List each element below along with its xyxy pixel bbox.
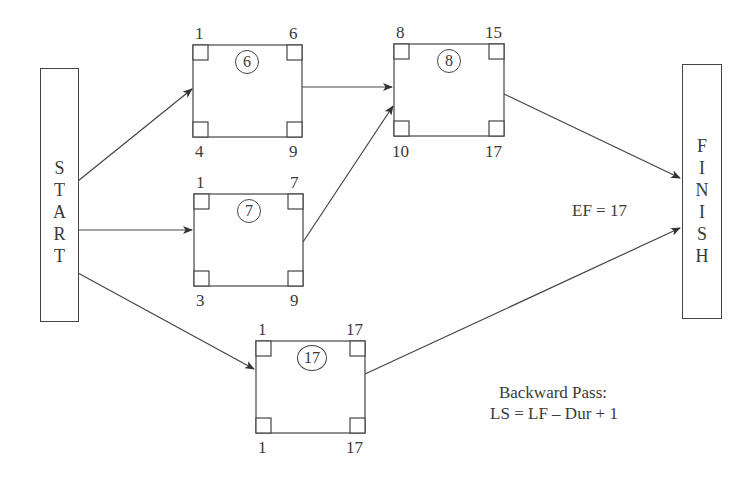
act8-early-start: 8 (396, 24, 405, 41)
start-label: S T A R T (41, 157, 78, 267)
act17-late-start: 1 (258, 439, 267, 456)
act6-early-start: 1 (195, 25, 204, 42)
act7-early-start: 1 (196, 174, 205, 191)
backward-pass-formula: LS = LF – Dur + 1 (469, 404, 639, 424)
finish-letter: H (683, 245, 721, 267)
edge-start-to-act17 (78, 273, 254, 369)
act6-early-finish: 6 (289, 25, 298, 42)
act17-early-start: 1 (258, 321, 267, 338)
act17-late-finish: 17 (346, 439, 363, 456)
start-letter: T (41, 245, 78, 267)
finish-label: F I N I S H (683, 135, 721, 267)
finish-letter: S (683, 223, 721, 245)
edge-start-to-act6 (78, 89, 192, 181)
network-diagram-canvas (0, 0, 753, 484)
project-ef-annotation: EF = 17 (572, 201, 627, 221)
start-letter: A (41, 201, 78, 223)
act6-duration: 6 (235, 50, 259, 74)
finish-letter: F (683, 135, 721, 157)
act6-late-start: 4 (195, 143, 204, 160)
edge-act7-to-act8 (303, 106, 393, 242)
finish-letter: I (683, 201, 721, 223)
act7-late-start: 3 (196, 292, 205, 309)
edge-act8-to-finish (504, 94, 680, 178)
act8-late-start: 10 (392, 143, 409, 160)
act17-early-finish: 17 (346, 321, 363, 338)
finish-letter: N (683, 179, 721, 201)
act17-duration: 17 (297, 345, 327, 371)
edge-act17-to-finish (365, 228, 680, 374)
act7-duration: 7 (237, 199, 261, 223)
start-node: S T A R T (40, 68, 79, 322)
backward-pass-title: Backward Pass: (484, 383, 622, 403)
act7-early-finish: 7 (290, 174, 299, 191)
act7-late-finish: 9 (290, 292, 299, 309)
start-letter: T (41, 179, 78, 201)
start-letter: S (41, 157, 78, 179)
act8-duration: 8 (437, 49, 461, 73)
act8-late-finish: 17 (485, 143, 502, 160)
act8-early-finish: 15 (485, 24, 502, 41)
start-letter: R (41, 223, 78, 245)
finish-letter: I (683, 157, 721, 179)
finish-node: F I N I S H (682, 64, 722, 319)
act6-late-finish: 9 (289, 143, 298, 160)
